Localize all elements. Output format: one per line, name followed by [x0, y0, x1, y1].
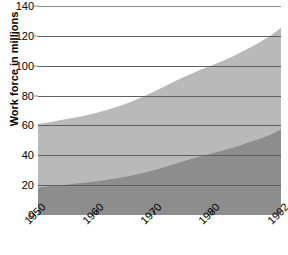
x-tick-label-1970: 1970: [138, 201, 164, 227]
x-tick-label-1960: 1960: [80, 201, 106, 227]
x-tick-label-1980: 1980: [196, 201, 222, 227]
x-tick-label-1950: 1950: [22, 201, 48, 227]
area-chart: Work force in millions 02040608010012014…: [0, 0, 288, 255]
x-axis-tick-labels: 19501960197019801992: [0, 0, 288, 255]
x-tick-label-1992: 1992: [265, 201, 288, 227]
